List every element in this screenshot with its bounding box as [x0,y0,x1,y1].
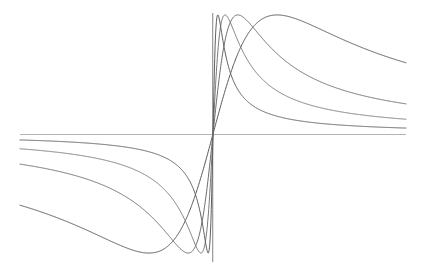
plot-background [0,0,423,274]
chart-figure [0,0,423,274]
plot-canvas [0,0,423,274]
